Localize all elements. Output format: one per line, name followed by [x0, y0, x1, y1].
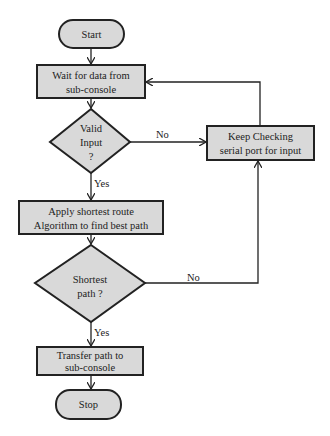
node-apply-line2: Algorithm to find best path [34, 220, 149, 231]
edge-label-shortest-yes: Yes [94, 327, 109, 338]
node-shortest-path: Shortest path ? [35, 245, 145, 322]
node-valid-line1: Valid [80, 123, 103, 134]
node-check-line2: serial port for input [220, 145, 301, 156]
node-shortest-line2: path ? [77, 288, 103, 299]
node-shortest-line1: Shortest [73, 274, 108, 285]
node-check-line1: Keep Checking [228, 131, 294, 142]
node-apply-line1: Apply shortest route [48, 206, 134, 217]
node-transfer-line1: Transfer path to [57, 350, 124, 361]
edge-check-to-wait [146, 82, 260, 126]
node-start-label: Start [82, 29, 102, 40]
node-keep-checking: Keep Checking serial port for input [207, 126, 314, 160]
node-transfer: Transfer path to sub-console [37, 347, 143, 375]
edge-label-shortest-no: No [187, 272, 200, 283]
node-stop: Stop [56, 390, 121, 419]
edge-label-valid-no: No [156, 129, 169, 140]
node-stop-label: Stop [79, 399, 98, 410]
node-apply-algorithm: Apply shortest route Algorithm to find b… [19, 201, 163, 234]
node-start: Start [59, 20, 124, 48]
node-wait: Wait for data from sub-console [37, 65, 145, 98]
node-valid-input: Valid Input ? [50, 109, 130, 173]
node-wait-line2: sub-console [66, 84, 116, 95]
flowchart: No Yes No Yes Start Wait for data from s… [0, 0, 330, 436]
node-wait-line1: Wait for data from [52, 70, 130, 81]
node-valid-line2: Input [80, 137, 102, 148]
node-valid-line3: ? [89, 151, 94, 162]
node-transfer-line2: sub-console [65, 362, 115, 373]
edge-label-valid-yes: Yes [94, 178, 109, 189]
